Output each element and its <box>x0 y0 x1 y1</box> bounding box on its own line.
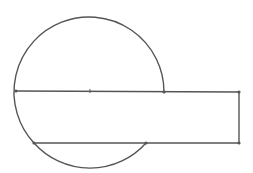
top-line <box>16 91 239 92</box>
point-chord-right <box>144 141 147 144</box>
point-chord-left <box>32 141 35 144</box>
point-rect-bottom-right <box>237 141 240 144</box>
point-rect-top-right <box>237 90 240 93</box>
point-diameter-left <box>14 89 17 92</box>
circle-lower-arc <box>34 143 146 168</box>
circle-upper-arc <box>14 17 164 143</box>
point-diameter-right <box>162 90 165 93</box>
geometry-diagram <box>0 0 253 173</box>
